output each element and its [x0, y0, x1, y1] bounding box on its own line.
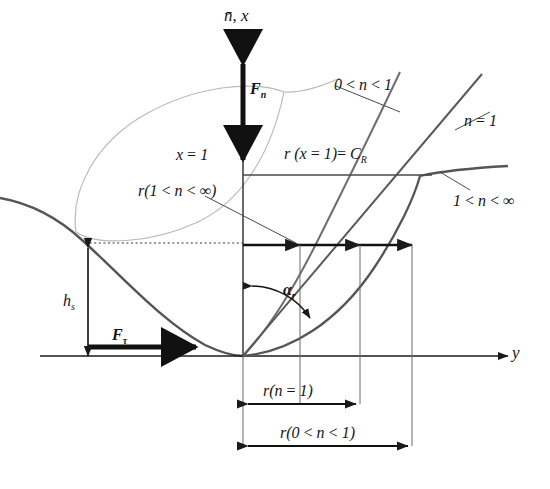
dimension-label-n-equals-1: r(n = 1)	[263, 382, 313, 400]
drop-guides	[243, 245, 412, 446]
force-normal-label: Fn	[250, 80, 266, 100]
alpha-angle-arc	[252, 286, 310, 318]
r-1-to-infinity-label: r(1 < n < ∞)	[138, 182, 216, 200]
axis-x-label: n̄, x	[224, 6, 249, 26]
diagram-canvas	[0, 0, 550, 489]
curve-n-between-0-and-1	[243, 72, 400, 356]
axis-y-label: y	[512, 343, 520, 363]
r-at-x1-label: r (x = 1)= CR	[284, 145, 367, 165]
x-equals-1-label: x = 1	[176, 146, 208, 164]
alpha-r-label: αr	[283, 281, 296, 301]
n-equals-1-label: n = 1	[464, 112, 497, 130]
force-shear-label: Fτ	[112, 326, 127, 346]
height-label: hs	[63, 292, 75, 312]
n-greater-than-1-label: 1 < n < ∞	[453, 192, 514, 210]
n-between-0-and-1-label: 0 < n < 1	[334, 76, 392, 94]
light-short-curve	[284, 78, 340, 92]
dimension-label-0-n-1: r(0 < n < 1)	[280, 424, 355, 442]
curve-n-equals-1	[243, 74, 482, 356]
